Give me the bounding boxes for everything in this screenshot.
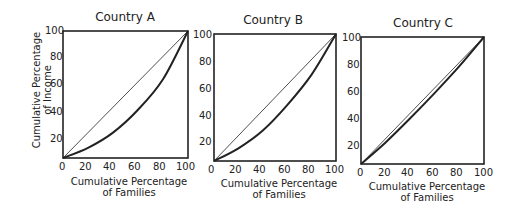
equality-line [63,31,188,158]
lorenz-plots [0,0,518,213]
equality-line [361,37,484,164]
equality-line [214,34,336,161]
